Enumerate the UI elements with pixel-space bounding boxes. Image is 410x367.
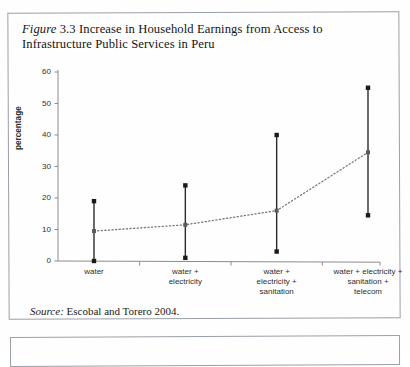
- figure-number: 3.3: [60, 22, 76, 36]
- y-axis-tick-label: 60: [29, 67, 51, 76]
- x-axis-category-label-line: telecom: [322, 287, 410, 297]
- x-axis-category-label-line: water: [48, 267, 140, 277]
- x-axis-category-label-line: water +: [231, 267, 323, 277]
- source-label: Source:: [30, 305, 64, 317]
- source-note: Source: Escobal and Torero 2004.: [30, 305, 179, 317]
- x-axis-category-label: water + electricity +sanitation +telecom: [322, 267, 410, 298]
- y-axis-tick-label: 0: [29, 256, 51, 265]
- figure-caption: Figure 3.3 Increase in Household Earning…: [22, 22, 382, 53]
- y-axis-tick-label: 30: [29, 162, 51, 171]
- y-axis-tick-label: 40: [29, 130, 51, 139]
- x-axis-category-label-line: water + electricity +: [322, 267, 410, 277]
- x-axis-category-label-line: sanitation +: [322, 277, 410, 287]
- source-text: Escobal and Torero 2004.: [67, 305, 180, 317]
- x-axis-category-label-line: electricity +: [231, 277, 323, 287]
- x-axis-category-label: water +electricity +sanitation: [231, 267, 323, 298]
- x-axis-category-label: water: [48, 267, 140, 277]
- y-axis-title: percentage: [14, 106, 23, 150]
- x-axis-category-label-line: sanitation: [231, 287, 323, 297]
- y-axis-tick-label: 50: [29, 99, 51, 108]
- figure-label: Figure: [22, 22, 56, 36]
- next-figure-box: [10, 335, 400, 367]
- y-axis-tick-label: 20: [29, 193, 51, 202]
- x-axis-category-label-line: water +: [139, 267, 231, 277]
- x-axis-category-label-line: electricity: [139, 277, 231, 287]
- x-axis-category-label: water +electricity: [139, 267, 231, 287]
- y-axis-tick-label: 10: [29, 225, 51, 234]
